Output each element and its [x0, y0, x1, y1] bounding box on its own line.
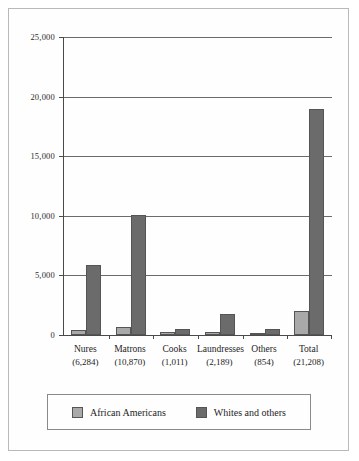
x-axis-label-name: Matrons [108, 343, 153, 356]
x-axis-label-name: Others [242, 343, 287, 356]
x-axis-label: Matrons(10,870) [108, 343, 153, 369]
x-axis-label-count: (10,870) [108, 356, 153, 369]
y-axis-tick-label: 25,000 [30, 32, 55, 42]
bar[interactable] [309, 109, 324, 335]
bar[interactable] [265, 329, 280, 335]
bar-group [243, 37, 288, 335]
x-axis-tick [331, 335, 332, 339]
bar[interactable] [160, 332, 175, 335]
bar[interactable] [205, 332, 220, 335]
x-axis-label: Laundresses(2,189) [197, 343, 242, 369]
bar[interactable] [71, 330, 86, 335]
x-axis-label: Total(21,208) [286, 343, 331, 369]
chart-figure: 05,00010,00015,00020,00025,000 Nures(6,2… [8, 8, 349, 451]
bar[interactable] [250, 333, 265, 335]
legend-item-african-americans: African Americans [72, 407, 166, 418]
bar-group [153, 37, 198, 335]
x-axis-label-count: (21,208) [286, 356, 331, 369]
x-axis-label-count: (1,011) [152, 356, 197, 369]
legend-swatch-icon [72, 407, 83, 418]
x-axis-label-name: Laundresses [197, 343, 242, 356]
y-axis-tick-label: 0 [51, 330, 55, 340]
bar-group [198, 37, 243, 335]
x-axis-tick [198, 335, 199, 339]
bar-series-container [64, 37, 332, 335]
legend-item-whites-and-others: Whites and others [196, 407, 286, 418]
bar-group [287, 37, 332, 335]
legend-swatch-icon [196, 407, 207, 418]
y-axis-tick-label: 20,000 [30, 92, 55, 102]
y-axis-tick-label: 10,000 [30, 211, 55, 221]
plot-area: 05,00010,00015,00020,00025,000 [63, 37, 332, 336]
y-axis-tick-label: 5,000 [35, 270, 55, 280]
x-axis-label: Nures(6,284) [63, 343, 108, 369]
x-axis-tick [153, 335, 154, 339]
bar-group [109, 37, 154, 335]
y-axis-tick [59, 335, 64, 336]
x-axis-tick [109, 335, 110, 339]
bar[interactable] [116, 327, 131, 335]
bar[interactable] [86, 265, 101, 335]
bar[interactable] [220, 314, 235, 335]
x-axis-label: Cooks(1,011) [152, 343, 197, 369]
x-axis-tick [243, 335, 244, 339]
x-axis-label-count: (6,284) [63, 356, 108, 369]
x-axis-labels: Nures(6,284)Matrons(10,870)Cooks(1,011)L… [63, 343, 331, 383]
legend-label: Whites and others [214, 407, 286, 418]
chart-legend: African Americans Whites and others [47, 394, 311, 430]
x-axis-label-name: Nures [63, 343, 108, 356]
bar[interactable] [175, 329, 190, 335]
x-axis-label-name: Total [286, 343, 331, 356]
x-axis-label: Others(854) [242, 343, 287, 369]
bar-group [64, 37, 109, 335]
y-axis-tick-label: 15,000 [30, 151, 55, 161]
x-axis-label-count: (854) [242, 356, 287, 369]
bar[interactable] [131, 215, 146, 335]
x-axis-tick [287, 335, 288, 339]
x-axis-label-count: (2,189) [197, 356, 242, 369]
x-axis-label-name: Cooks [152, 343, 197, 356]
bar[interactable] [294, 311, 309, 335]
legend-label: African Americans [90, 407, 166, 418]
